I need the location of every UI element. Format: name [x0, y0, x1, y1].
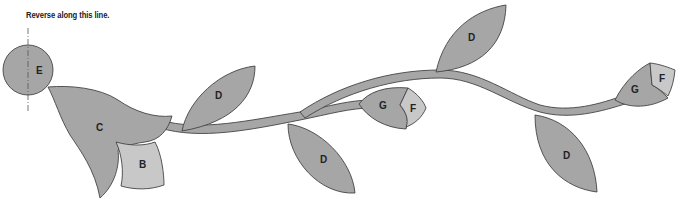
label-f-1: F [410, 103, 416, 114]
label-d-1: D [215, 90, 222, 101]
label-g-2: G [631, 84, 639, 95]
label-g-1: G [379, 100, 387, 111]
label-c: C [96, 122, 103, 133]
label-e: E [36, 65, 43, 76]
label-f-2: F [659, 73, 665, 84]
label-d-4: D [563, 150, 570, 161]
label-b: B [139, 159, 146, 170]
stem-upper [300, 70, 628, 118]
applique-vine-diagram: E C B D D D D G F G F [0, 0, 679, 205]
label-d-3: D [468, 32, 475, 43]
label-d-2: D [320, 154, 327, 165]
